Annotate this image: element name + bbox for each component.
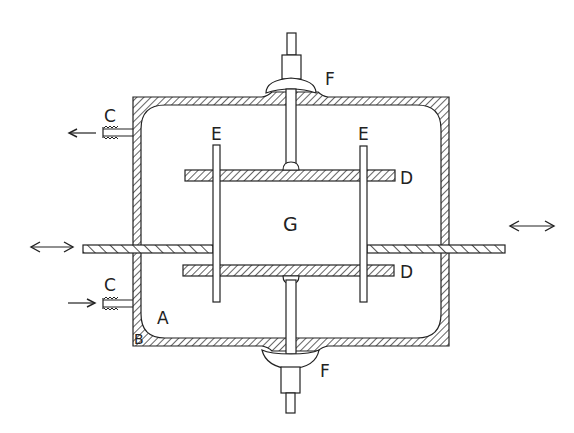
label-f-bottom: F bbox=[320, 361, 330, 381]
left-rod bbox=[83, 245, 213, 253]
rod-e-left bbox=[213, 145, 220, 302]
label-g: G bbox=[283, 213, 298, 235]
label-f-top: F bbox=[325, 69, 335, 89]
port-c-top bbox=[103, 126, 133, 139]
label-d-top: D bbox=[400, 168, 413, 188]
apparatus-diagram: C C E E D D F F G A B bbox=[0, 0, 574, 433]
right-rod bbox=[367, 245, 505, 253]
label-a: A bbox=[157, 308, 169, 328]
label-c-top: C bbox=[104, 106, 116, 126]
label-e-right: E bbox=[358, 124, 369, 144]
arrow-right-bidirectional bbox=[510, 221, 554, 231]
label-b: B bbox=[134, 331, 144, 347]
arrow-left-bidirectional bbox=[31, 242, 73, 252]
rod-e-right bbox=[360, 146, 367, 302]
port-c-bottom bbox=[103, 297, 133, 310]
label-c-bottom: C bbox=[104, 275, 116, 295]
arrow-outlet bbox=[69, 129, 96, 137]
label-e-left: E bbox=[211, 124, 222, 144]
label-d-bottom: D bbox=[400, 262, 413, 282]
arrow-inlet bbox=[68, 299, 95, 307]
